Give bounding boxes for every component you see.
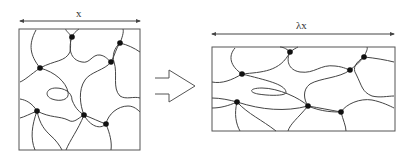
crosslinks bbox=[34, 34, 123, 127]
polymer-chains bbox=[20, 29, 140, 150]
stretched-width-label: λx bbox=[296, 19, 307, 31]
network-box bbox=[19, 29, 140, 150]
crosslink-node bbox=[108, 59, 114, 65]
stretched-network: λx bbox=[211, 19, 395, 131]
stretched-crosslinks bbox=[234, 49, 367, 115]
stretched-polymer-chains bbox=[212, 47, 394, 131]
width-label: x bbox=[76, 7, 82, 19]
crosslink-node bbox=[234, 99, 240, 105]
crosslink-node bbox=[338, 109, 344, 115]
crosslink-node bbox=[239, 71, 245, 77]
crosslink-node bbox=[287, 49, 293, 55]
crosslink-node bbox=[34, 108, 40, 114]
undeformed-network: x bbox=[19, 7, 141, 150]
width-dimension-arrow bbox=[19, 19, 141, 23]
crosslink-node bbox=[361, 54, 367, 60]
crosslink-node bbox=[69, 34, 75, 40]
network-stretch-diagram: x bbox=[0, 0, 411, 156]
transition-arrow-icon bbox=[155, 70, 195, 102]
crosslink-node bbox=[81, 112, 87, 118]
stretched-network-box bbox=[212, 47, 395, 131]
crosslink-node bbox=[37, 65, 43, 71]
crosslink-node bbox=[117, 40, 123, 46]
stretched-width-dimension-arrow bbox=[211, 32, 395, 36]
crosslink-node bbox=[347, 67, 353, 73]
crosslink-node bbox=[103, 121, 109, 127]
crosslink-node bbox=[305, 103, 311, 109]
